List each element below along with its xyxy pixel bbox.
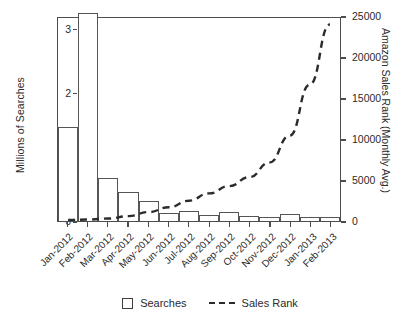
x-axis-tick [330,222,331,227]
x-axis-tick [107,222,108,227]
square-marker-icon [122,298,133,309]
legend-item-sales-rank: Sales Rank [209,297,298,309]
legend-label: Sales Rank [242,297,298,309]
x-axis-tick [209,222,210,227]
chart-figure: Millions of Searches Amazon Sales Rank (… [0,0,420,328]
y-axis-left-title: Millions of Searches [14,50,26,200]
dashed-line-marker-icon [209,302,235,304]
x-axis-tick [188,222,189,227]
y-axis-right-title: Amazon Sales Rank (Monthly Avg.) [380,28,392,228]
x-axis-tick [310,222,311,227]
x-axis-tick [249,222,250,227]
x-axis-tick [148,222,149,227]
x-axis-tick [168,222,169,227]
x-axis-tick [67,222,68,227]
x-axis-tick [127,222,128,227]
legend-label: Searches [140,297,186,309]
chart-legend: SearchesSales Rank [0,297,420,309]
x-axis-tick [290,222,291,227]
x-axis-tick [87,222,88,227]
legend-item-searches: Searches [122,297,186,309]
plot-area [57,17,341,222]
line-series-sales-rank [58,18,340,221]
x-axis-tick [229,222,230,227]
x-axis-tick [269,222,270,227]
